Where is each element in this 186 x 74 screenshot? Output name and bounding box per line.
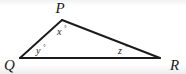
side-PR: [62, 20, 160, 58]
side-PQ: [20, 20, 62, 58]
vertex-label-P: P: [54, 0, 64, 16]
svg-text:x: x: [56, 26, 62, 37]
svg-text:z: z: [117, 45, 122, 56]
vertex-label-Q: Q: [4, 57, 15, 73]
angle-label-x: x °: [56, 25, 67, 37]
svg-text:°: °: [43, 44, 46, 50]
angle-label-z: z °: [117, 44, 128, 56]
vertex-label-R: R: [169, 57, 179, 73]
angle-label-y: y °: [35, 44, 46, 56]
triangle-diagram: P Q R x ° y ° z °: [0, 0, 186, 74]
svg-text:y: y: [35, 45, 41, 56]
svg-text:°: °: [64, 25, 67, 31]
